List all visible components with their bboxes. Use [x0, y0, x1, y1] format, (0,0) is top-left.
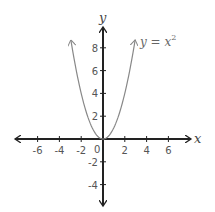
x-tick-label: 4: [143, 145, 149, 156]
x-tick-label: -4: [54, 145, 64, 156]
x-axis-label: x: [194, 131, 202, 146]
parabola-chart: -6-4-2246 -4-22468 x y y = x2 0: [0, 0, 215, 212]
curve-label: y = x2: [139, 33, 176, 49]
y-axis-label: y: [98, 10, 107, 25]
x-tick-label: -6: [33, 145, 43, 156]
x-tick-label: -2: [76, 145, 86, 156]
y-tick-label: -4: [88, 180, 98, 191]
y-tick-label: 4: [92, 88, 98, 99]
x-tick-label: 2: [122, 145, 128, 156]
y-tick-label: 2: [92, 111, 98, 122]
origin-label: 0: [94, 144, 100, 155]
y-tick-label: 6: [92, 66, 98, 77]
y-tick-label: 8: [92, 43, 98, 54]
x-tick-label: 6: [165, 145, 171, 156]
y-tick-label: -2: [88, 157, 98, 168]
